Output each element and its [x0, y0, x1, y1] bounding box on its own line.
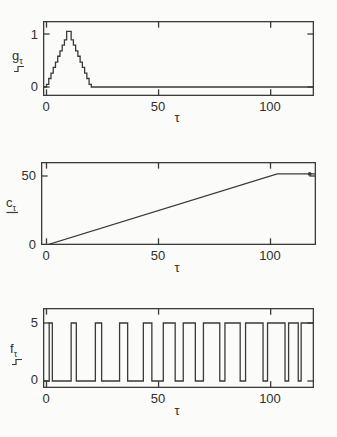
- c-plot-canvas: [41, 162, 316, 245]
- f-plot-frame: [44, 309, 314, 388]
- g-ytick-1: 1: [14, 28, 38, 42]
- c-xaxis-label: τ: [169, 261, 185, 275]
- g-xtick-100: 100: [256, 100, 284, 114]
- f-xtick-50: 50: [144, 392, 172, 406]
- g-xtick-50: 50: [144, 100, 172, 114]
- f-ytick-5: 5: [14, 316, 38, 330]
- g-xaxis-label: τ: [169, 111, 185, 125]
- g-plot-frame: [44, 22, 314, 96]
- c-curve: [43, 174, 316, 245]
- g-curve: [44, 31, 314, 87]
- underline-marker-icon: [6, 211, 19, 214]
- c-end-marker: [308, 172, 312, 176]
- f-xtick-0: 0: [32, 392, 60, 406]
- f-plot-canvas: [43, 308, 314, 388]
- c-ytick-50: 50: [12, 169, 36, 183]
- f-curve: [44, 323, 314, 381]
- c-xtick-0: 0: [32, 249, 60, 263]
- f-xaxis-label: τ: [169, 404, 185, 418]
- f-xtick-100: 100: [256, 392, 284, 406]
- c-xtick-50: 50: [144, 249, 172, 263]
- c-xtick-100: 100: [256, 249, 284, 263]
- staircase-marker-icon: [11, 357, 23, 366]
- f-ytick-0: 0: [14, 373, 38, 387]
- g-xtick-0: 0: [32, 100, 60, 114]
- g-ytick-0: 0: [14, 80, 38, 94]
- figure: gτ 1 0 0 50 100 τ cτ 50 0 0 50 100 τ fτ …: [0, 0, 337, 437]
- g-plot-canvas: [43, 21, 314, 96]
- staircase-marker-icon: [13, 64, 25, 73]
